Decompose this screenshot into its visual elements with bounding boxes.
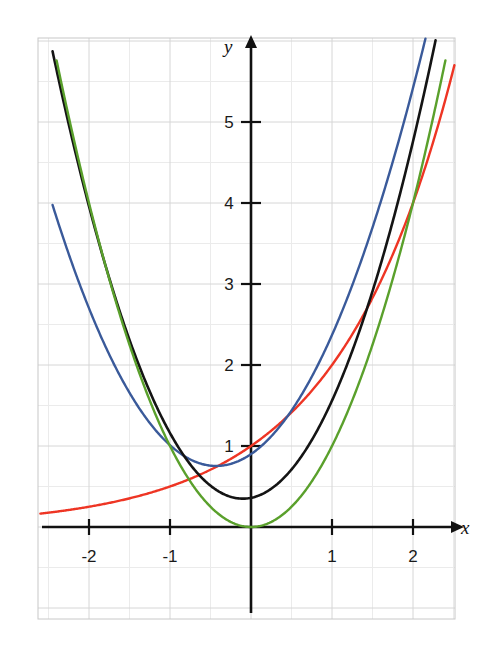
curve-group bbox=[40, 39, 454, 527]
plot-border bbox=[38, 38, 455, 619]
chart-canvas: -2-11212345 x y bbox=[0, 0, 483, 647]
y-axis-label: y bbox=[222, 36, 233, 57]
grid-major-lines bbox=[38, 38, 455, 619]
curve-black-parabola bbox=[53, 40, 436, 498]
x-axis-label: x bbox=[460, 517, 470, 538]
grid-minor-lines bbox=[38, 38, 455, 619]
x-tick-label: 2 bbox=[408, 547, 417, 566]
y-tick-label: 1 bbox=[224, 437, 233, 456]
curve-blue-parabola bbox=[53, 39, 426, 466]
x-tick-label: 1 bbox=[327, 547, 336, 566]
y-tick-label: 4 bbox=[224, 194, 233, 213]
function-graph: -2-11212345 x y bbox=[0, 0, 483, 647]
y-tick-label: 2 bbox=[224, 356, 233, 375]
y-tick-label: 5 bbox=[224, 113, 233, 132]
y-tick-label: 3 bbox=[224, 275, 233, 294]
x-tick-label: -2 bbox=[81, 547, 96, 566]
x-tick-label: -1 bbox=[162, 547, 177, 566]
